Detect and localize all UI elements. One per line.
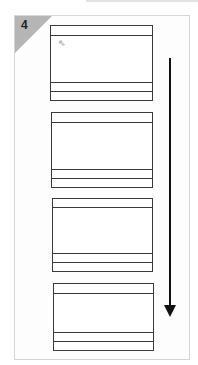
footer-bar-bottom [51, 91, 152, 92]
footer-bar-top [54, 332, 153, 333]
screen-wireframe-3 [52, 198, 153, 272]
footer-bar-bottom [53, 262, 152, 263]
footer-bar-top [52, 169, 152, 170]
arrow-down-icon [164, 305, 176, 317]
screen-wireframe-1: ⇖ [50, 25, 153, 101]
footer-bar-bottom [54, 341, 153, 342]
screen-wireframe-4 [53, 283, 154, 351]
top-divider [86, 0, 198, 2]
pointer-cursor-icon: ⇖ [58, 38, 66, 48]
screen-wireframe-2 [51, 112, 153, 188]
footer-bar-bottom [52, 178, 152, 179]
step-number: 4 [21, 18, 28, 32]
header-bar [54, 293, 153, 294]
header-bar [53, 207, 152, 208]
footer-bar-top [51, 82, 152, 83]
header-bar [52, 122, 152, 123]
header-bar [51, 35, 152, 36]
footer-bar-top [53, 253, 152, 254]
scroll-arrow-shaft [169, 58, 171, 308]
